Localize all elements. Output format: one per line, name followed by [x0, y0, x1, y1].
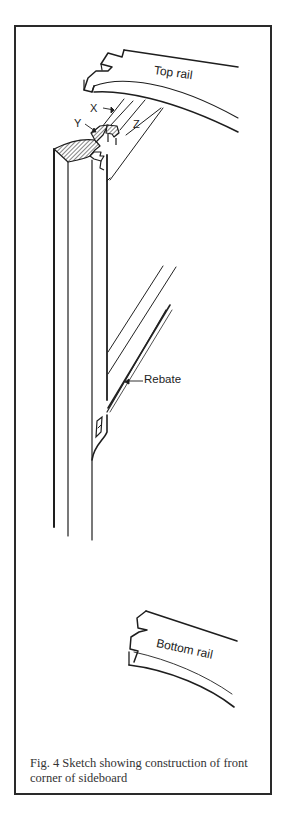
corner-post-drawing [54, 99, 163, 540]
caption-line-2: corner of sideboard [30, 771, 265, 786]
dimension-y-label: Y [74, 117, 81, 129]
rebate-leader [125, 379, 143, 384]
side-frame-rails [107, 266, 176, 412]
rebate-label: Rebate [144, 373, 181, 385]
dimension-x-label: X [90, 102, 97, 114]
joint-cross-section [54, 125, 119, 170]
dimension-z-label: Z [133, 118, 140, 130]
sideboard-corner-sketch [0, 0, 284, 817]
bottom-rail-drawing [129, 611, 237, 707]
figure-caption: Fig. 4 Sketch showing construction of fr… [30, 756, 265, 786]
caption-line-1: Fig. 4 Sketch showing construction of fr… [30, 756, 265, 771]
